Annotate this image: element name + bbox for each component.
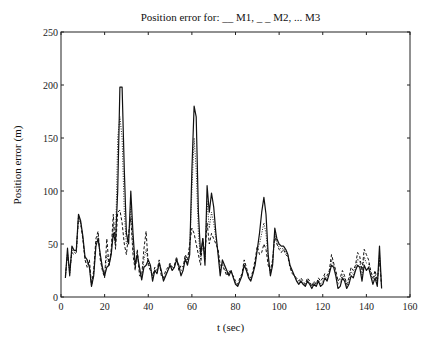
y-tick-label: 0 (53, 292, 58, 303)
x-tick-label: 120 (315, 301, 330, 312)
x-tick-label: 0 (59, 301, 64, 312)
x-tick-label: 100 (272, 301, 287, 312)
x-tick-label: 160 (403, 301, 418, 312)
y-tick-label: 100 (43, 186, 58, 197)
series-layer (65, 87, 381, 288)
series-line-m2 (65, 210, 381, 286)
series-line-m1 (65, 87, 381, 288)
x-tick-label: 140 (359, 301, 374, 312)
y-tick-label: 250 (43, 27, 58, 38)
y-tick-label: 200 (43, 80, 58, 91)
axes-frame (61, 32, 410, 297)
x-tick-label: 20 (100, 301, 110, 312)
y-tick-label: 50 (48, 239, 58, 250)
x-tick-label: 60 (187, 301, 197, 312)
x-tick-label: 40 (143, 301, 153, 312)
plot-area: 020406080100120140160050100150200250 (0, 0, 439, 349)
x-tick-label: 80 (231, 301, 241, 312)
y-tick-label: 150 (43, 133, 58, 144)
